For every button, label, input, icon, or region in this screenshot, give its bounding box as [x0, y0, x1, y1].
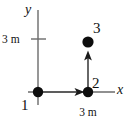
horizontal-displacement-vector: [40, 88, 85, 96]
diagram-canvas: y x 3 m 1 2 3 3 m: [0, 0, 129, 121]
point-3-group: 3: [82, 20, 100, 48]
x-segment-dimension-label: 3 m: [79, 106, 97, 118]
physics-diagram-figure: y x 3 m 1 2 3 3 m: [0, 0, 129, 121]
point-1-dot: [33, 87, 43, 97]
point-2-label: 2: [92, 75, 100, 91]
point-1-label: 1: [21, 97, 29, 113]
point-2-group: 2: [83, 75, 100, 97]
y-axis-label: y: [23, 2, 32, 17]
x-axis-label: x: [116, 82, 124, 97]
y-axis-dimension-label: 3 m: [2, 33, 20, 45]
vertical-displacement-vector: [84, 51, 92, 91]
point-1-group: 1: [21, 87, 43, 113]
point-3-dot: [82, 36, 93, 47]
point-3-label: 3: [93, 20, 101, 36]
